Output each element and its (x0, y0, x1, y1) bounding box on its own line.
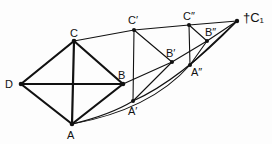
label-C: C (70, 28, 78, 39)
label-D: D (5, 79, 13, 90)
tetrahedron-diagram: D C B A C′ A′ B′ C″ A″ B″ †C₁ (0, 0, 272, 144)
label-C1: †C₁ (243, 11, 264, 24)
label-C-prime: C′ (128, 15, 138, 26)
label-C-double-prime: C″ (183, 11, 195, 22)
label-B-double-prime: B″ (205, 27, 216, 38)
label-A: A (67, 130, 74, 141)
base-tetrahedron (21, 41, 123, 124)
label-B-prime: B′ (166, 48, 175, 59)
label-A-double-prime: A″ (191, 67, 202, 78)
label-B: B (118, 70, 125, 81)
label-A-prime: A′ (128, 106, 137, 117)
